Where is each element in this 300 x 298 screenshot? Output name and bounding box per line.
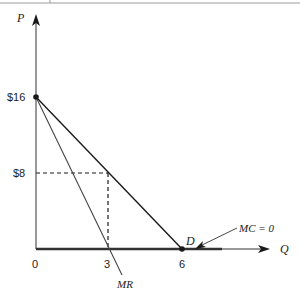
x-tick-6: 6 [179,258,185,270]
y-axis-label: P [16,11,25,25]
mc-label-pointer [200,228,237,246]
mc-label: MC = 0 [238,222,274,234]
y-tick-8: $8 [13,167,25,179]
x-tick-0: 0 [32,258,38,270]
y-tick-16: $16 [7,91,25,103]
demand-label: D [185,234,195,248]
x-axis-label: Q [280,242,289,256]
diagram-canvas: P Q $16 $8 0 3 6 D MR MC = 0 [0,0,300,298]
x-tick-3: 3 [104,258,110,270]
intercept-point [33,94,39,100]
mr-label: MR [116,278,133,290]
demand-q-intercept-point [179,246,185,252]
